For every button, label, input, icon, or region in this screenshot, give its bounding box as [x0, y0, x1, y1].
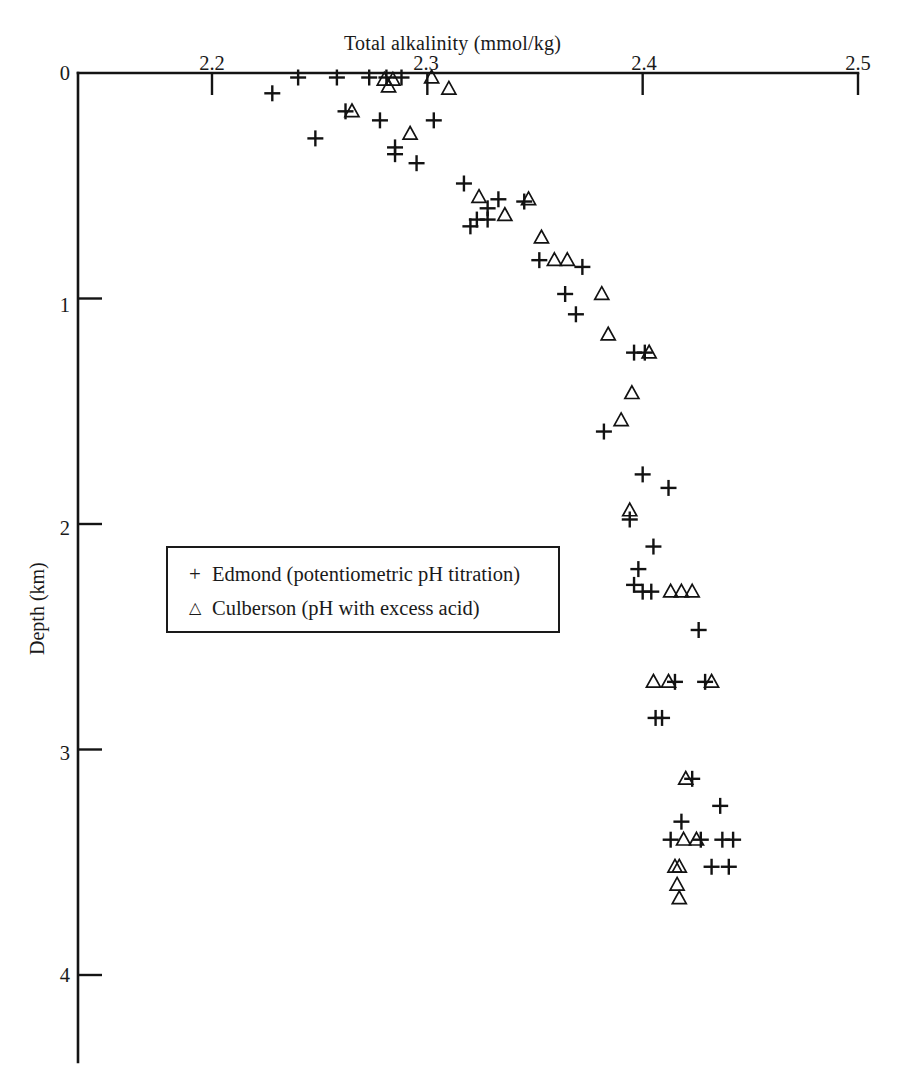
plot-area	[0, 0, 905, 1087]
series-edmond	[264, 70, 741, 875]
alkalinity-depth-chart: Total alkalinity (mmol/kg) 2.2 2.3 2.4 2…	[0, 0, 905, 1087]
data-point-triangle	[614, 413, 628, 426]
data-point-plus	[725, 832, 741, 848]
data-point-plus	[426, 112, 442, 128]
data-point-triangle	[646, 675, 660, 688]
data-point-plus	[661, 480, 677, 496]
data-point-plus	[630, 561, 646, 577]
data-point-triangle	[625, 386, 639, 399]
data-point-triangle	[403, 127, 417, 140]
data-point-plus	[645, 539, 661, 555]
data-point-triangle	[677, 832, 691, 845]
data-point-plus	[712, 798, 728, 814]
data-point-triangle	[547, 253, 561, 266]
axes	[78, 73, 858, 1062]
data-point-triangle	[670, 877, 684, 890]
data-point-plus	[307, 130, 323, 146]
data-point-plus	[456, 175, 472, 191]
data-point-triangle	[560, 253, 574, 266]
data-point-plus	[635, 466, 651, 482]
data-point-plus	[568, 306, 584, 322]
data-point-plus	[691, 622, 707, 638]
data-point-triangle	[601, 327, 615, 340]
data-point-plus	[264, 85, 280, 101]
data-point-triangle	[472, 190, 486, 203]
data-point-plus	[409, 155, 425, 171]
data-point-plus	[673, 814, 689, 830]
data-point-triangle	[442, 81, 456, 94]
data-point-plus	[480, 212, 496, 228]
data-points	[264, 70, 741, 904]
data-point-triangle	[498, 208, 512, 221]
data-point-triangle	[595, 287, 609, 300]
data-point-triangle	[672, 891, 686, 904]
data-point-plus	[557, 286, 573, 302]
data-point-plus	[596, 424, 612, 440]
data-point-plus	[574, 259, 590, 275]
data-point-plus	[531, 252, 547, 268]
data-point-plus	[721, 859, 737, 875]
data-point-plus	[643, 584, 659, 600]
data-point-plus	[490, 191, 506, 207]
data-point-triangle	[534, 230, 548, 243]
data-point-plus	[372, 112, 388, 128]
data-point-plus	[704, 859, 720, 875]
